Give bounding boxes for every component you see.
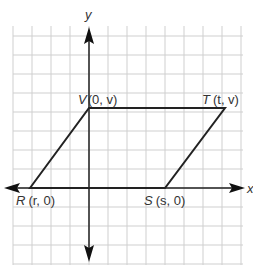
vertex-r-label: R(r, 0) bbox=[16, 193, 55, 208]
vertex-v-label: V(0, v) bbox=[78, 92, 117, 107]
coordinate-plane: x y V(0, v) T(t, v) R(r, 0) S(s, 0) bbox=[0, 0, 253, 265]
vertex-s-coords: (s, 0) bbox=[156, 193, 186, 208]
grid bbox=[13, 26, 243, 265]
vertex-s-label: S(s, 0) bbox=[144, 193, 185, 208]
vertex-t-label: T(t, v) bbox=[202, 92, 239, 107]
vertex-r-coords: (r, 0) bbox=[28, 193, 55, 208]
vertex-v-coords: (0, v) bbox=[88, 92, 118, 107]
vertex-t-coords: (t, v) bbox=[213, 92, 239, 107]
y-axis-label: y bbox=[84, 7, 93, 22]
y-axis: y bbox=[84, 7, 94, 262]
x-axis-label: x bbox=[246, 181, 253, 196]
